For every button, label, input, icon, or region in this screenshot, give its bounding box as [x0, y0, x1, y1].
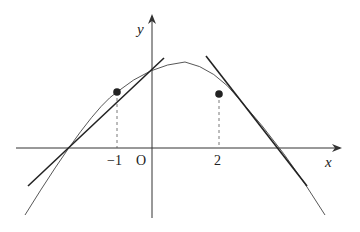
x-axis-label: x [324, 154, 332, 170]
graph-canvas: y x O −1 2 [0, 0, 360, 232]
tangent-point-neg1 [113, 88, 121, 96]
tangent-point-2 [215, 90, 223, 98]
tick-label-neg1: −1 [107, 153, 122, 168]
y-axis-label: y [135, 21, 144, 37]
tick-label-2: 2 [214, 153, 221, 168]
function-curve [25, 62, 325, 215]
tangent-line-right [206, 56, 307, 186]
origin-label: O [136, 153, 146, 168]
